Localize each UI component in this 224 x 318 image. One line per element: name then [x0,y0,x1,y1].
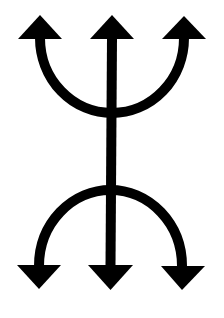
center-stem [111,38,113,266]
left-down-arrow-icon [17,265,61,289]
center-down-arrow-icon [88,265,133,290]
left-up-arrow-icon [18,15,62,39]
center-up-arrow-icon [90,15,134,39]
right-down-arrow-icon [161,266,205,290]
double-trident-icon [0,0,224,318]
symbol-canvas [0,0,224,318]
right-up-arrow-icon [162,16,206,39]
